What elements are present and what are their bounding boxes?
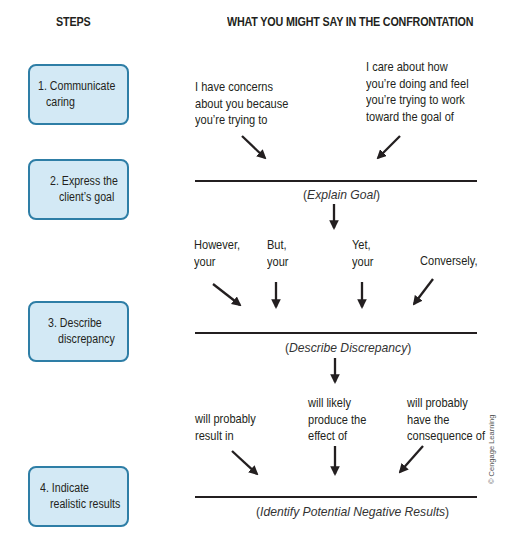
arrow-diag-down-left-icon	[378, 136, 400, 158]
arrows-layer	[0, 0, 512, 546]
arrow-diag-down-left-icon	[414, 279, 433, 304]
copyright-notice: © Cengage Learning	[487, 415, 496, 484]
arrow-diag-down-right-icon	[242, 136, 265, 158]
arrow-diag-down-right-icon	[232, 451, 257, 474]
arrow-diag-down-left-icon	[400, 446, 423, 472]
arrow-diag-down-right-icon	[213, 284, 240, 305]
